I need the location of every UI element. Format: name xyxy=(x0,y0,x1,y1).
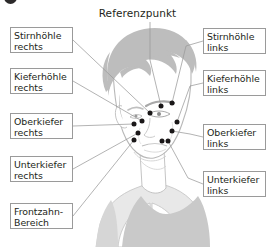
callout-unterkiefer-rechts: Unterkiefer rechts xyxy=(10,156,73,182)
callout-frontzahn-bereich: Frontzahn- Bereich xyxy=(10,203,73,229)
callout-kieferhoehle-rechts: Kieferhöhle rechts xyxy=(10,68,73,94)
callout-stirnhoehle-rechts: Stirnhöhle rechts xyxy=(10,27,73,53)
marker-dot-unterkiefer-links-2 xyxy=(160,139,165,144)
marker-dot-stirnhoehle-rechts xyxy=(148,111,153,116)
leader-oberkiefer-rechts xyxy=(73,124,134,126)
callout-line1: Oberkiefer xyxy=(207,127,265,138)
callout-line2: links xyxy=(207,84,265,95)
leader-oberkiefer-links xyxy=(172,131,203,137)
leader-stirnhoehle-rechts xyxy=(73,40,150,113)
marker-dot-referenzpunkt xyxy=(159,104,164,109)
callout-line1: Stirnhöhle xyxy=(207,31,265,42)
callout-line2: rechts xyxy=(14,82,72,93)
callout-line1: Kieferhöhle xyxy=(14,71,72,82)
figure-canvas: Referenzpunkt Stirnhöhle rechts Kieferhö… xyxy=(0,0,275,247)
marker-dot-unterkiefer-links xyxy=(166,139,171,144)
callout-oberkiefer-links: Oberkiefer links xyxy=(203,124,266,150)
callout-stirnhoehle-links: Stirnhöhle links xyxy=(203,28,266,54)
leader-frontzahn-bereich xyxy=(73,140,134,216)
callout-line2: links xyxy=(207,185,265,196)
marker-dot-kieferhoehle-links xyxy=(175,120,180,125)
leader-kieferhoehle-links xyxy=(177,83,203,122)
marker-dot-frontzahn-bereich xyxy=(132,138,137,143)
callout-line1: Stirnhöhle xyxy=(14,30,72,41)
callout-line1: Kieferhöhle xyxy=(207,73,265,84)
callout-unterkiefer-links: Unterkiefer links xyxy=(203,171,266,197)
leader-kieferhoehle-rechts xyxy=(73,81,142,121)
callout-line2: links xyxy=(207,138,265,149)
leader-unterkiefer-rechts xyxy=(73,133,138,169)
leader-referenzpunkt xyxy=(150,22,161,106)
callout-oberkiefer-rechts: Oberkiefer rechts xyxy=(10,113,73,139)
marker-dot-oberkiefer-rechts xyxy=(132,122,137,127)
callout-line1: Frontzahn- xyxy=(14,206,72,217)
callout-line1: Unterkiefer xyxy=(14,159,72,170)
callout-line2: rechts xyxy=(14,127,72,138)
callout-line2: rechts xyxy=(14,41,72,52)
callout-line2: Bereich xyxy=(14,217,72,228)
marker-dot-stirnhoehle-links xyxy=(170,101,175,106)
callout-line1: Oberkiefer xyxy=(14,116,72,127)
callout-kieferhoehle-links: Kieferhöhle links xyxy=(203,70,266,96)
marker-dot-oberkiefer-links xyxy=(170,129,175,134)
callout-line2: rechts xyxy=(14,170,72,181)
page-title: Referenzpunkt xyxy=(0,7,275,19)
marker-dot-unterkiefer-rechts xyxy=(136,131,141,136)
callout-line1: Unterkiefer xyxy=(207,174,265,185)
leader-unterkiefer-links xyxy=(168,141,203,184)
marker-dot-kieferhoehle-rechts xyxy=(140,119,145,124)
callout-line2: links xyxy=(207,42,265,53)
